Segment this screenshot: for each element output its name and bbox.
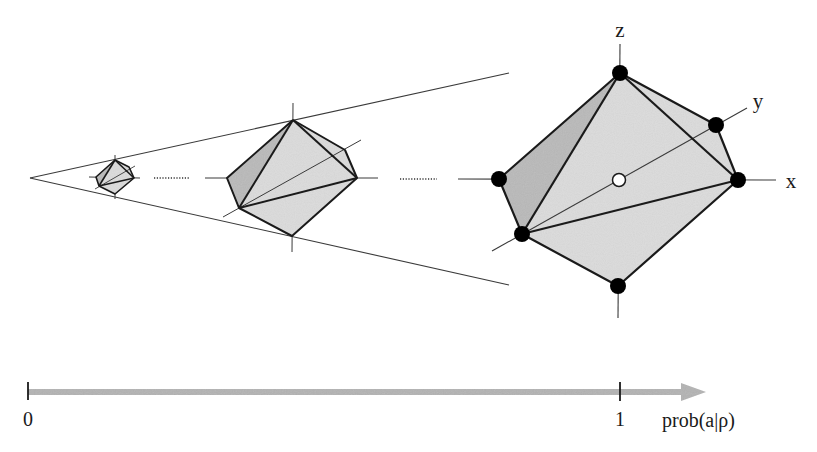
octahedron-probability-diagram: z y x 0 1 prob(a|ρ)	[0, 0, 817, 452]
y-axis-label: y	[753, 89, 764, 113]
vertex-z-bottom	[610, 278, 626, 294]
vertex-y-positive	[708, 117, 724, 133]
tick-one-label: 1	[615, 408, 625, 430]
octahedron-large: z y x	[458, 18, 797, 318]
vertex-y-negative	[514, 226, 530, 242]
probability-arrow	[28, 383, 706, 401]
tick-zero-label: 0	[23, 408, 33, 430]
vertex-z-top	[612, 65, 628, 81]
x-axis-label: x	[786, 169, 797, 193]
vertex-x-positive	[730, 172, 746, 188]
probability-axis: 0 1 prob(a|ρ)	[23, 382, 735, 432]
center-hollow-marker	[613, 174, 626, 187]
z-axis-label: z	[615, 18, 624, 42]
vertex-x-negative	[491, 171, 507, 187]
octahedron-medium	[205, 103, 378, 252]
probability-axis-label: prob(a|ρ)	[662, 409, 735, 432]
